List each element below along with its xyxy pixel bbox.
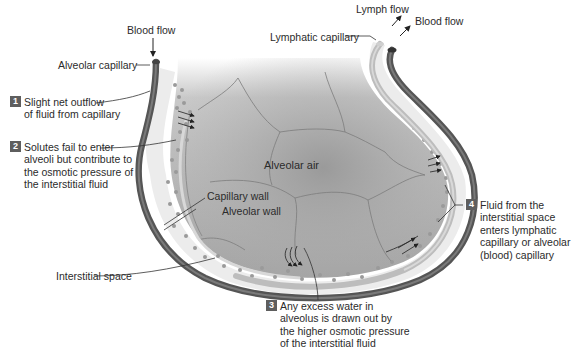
step-line: the osmotic pressure of [24, 166, 133, 178]
step-4: 4 Fluid from the interstitial space ente… [466, 199, 570, 261]
step-line: enters lymphatic [480, 224, 570, 236]
capillary-wall-label: Capillary wall [207, 190, 269, 202]
alveolar-capillary-label: Alveolar capillary [58, 59, 137, 71]
step-line: alveoli but contribute to [24, 153, 133, 165]
step-badge: 1 [10, 96, 21, 107]
step-badge: 3 [266, 300, 277, 311]
step-line: the higher osmotic pressure [280, 325, 410, 337]
interstitial-space-label: Interstitial space [56, 270, 132, 282]
step-line: interstitial space [480, 211, 570, 223]
step-badge: 4 [466, 199, 477, 210]
lymph-flow-label: Lymph flow [356, 3, 409, 15]
step-2: 2 Solutes fail to enter alveoli but cont… [10, 141, 133, 191]
alveolar-air-label: Alveolar air [264, 159, 319, 171]
step-line: Fluid from the [480, 199, 570, 211]
step-line: (blood) capillary [480, 249, 570, 261]
alveolar-wall-label: Alveolar wall [222, 205, 281, 217]
step-line: capillary or alveolar [480, 236, 570, 248]
step-line: of fluid from capillary [24, 108, 120, 120]
step-line: Solutes fail to enter [24, 141, 133, 153]
step-1: 1 Slight net outflow of fluid from capil… [10, 96, 120, 121]
blood-flow-in-label: Blood flow [127, 24, 175, 36]
step-line: of the interstitial fluid [280, 337, 410, 349]
step-line: Any excess water in [280, 300, 410, 312]
step-line: Slight net outflow [24, 96, 120, 108]
step-badge: 2 [10, 141, 21, 152]
step-3: 3 Any excess water in alveolus is drawn … [266, 300, 410, 350]
lymphatic-capillary-label: Lymphatic capillary [270, 31, 359, 43]
step-line: alveolus is drawn out by [280, 312, 410, 324]
step-line: the interstitial fluid [24, 178, 133, 190]
blood-flow-out-label: Blood flow [415, 15, 463, 27]
